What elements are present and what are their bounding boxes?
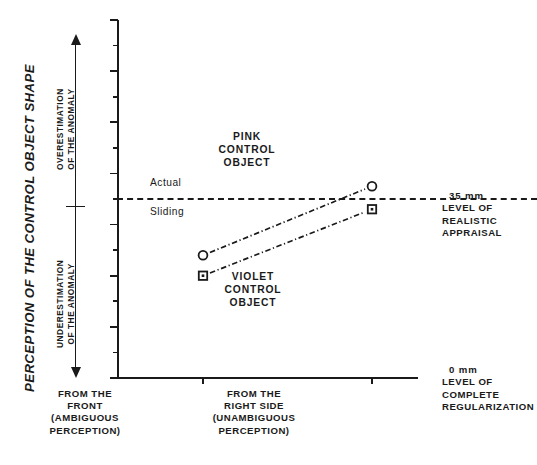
overestimation-label: OVERESTIMATION OF THE ANOMALY bbox=[55, 88, 76, 170]
side-note-35mm-amount: 35 mm bbox=[442, 190, 502, 202]
side-note-35mm-line-2: REALISTIC bbox=[442, 215, 502, 227]
overestimation-line-2: OF THE ANOMALY bbox=[66, 88, 77, 170]
y-tick-50 bbox=[110, 121, 118, 123]
side-note-35mm-line-3: APPRAISAL bbox=[442, 227, 502, 239]
data-series-layer bbox=[118, 20, 418, 379]
x-category-0-line-2: (AMBIGUOUS bbox=[10, 412, 160, 424]
side-note-0mm-line-1: LEVEL OF bbox=[442, 376, 534, 388]
x-category-1-line-2: (UNAMBIGUOUS bbox=[179, 412, 329, 424]
x-category-label-1: FROM THERIGHT SIDE(UNAMBIGUOUSPERCEPTION… bbox=[179, 388, 329, 437]
y-tick-30 bbox=[110, 224, 118, 226]
underestimation-line-2: OF THE ANOMALY bbox=[66, 260, 77, 348]
x-category-0-line-0: FROM THE bbox=[10, 388, 160, 400]
side-note-35mm: 35 mm LEVEL OF REALISTIC APPRAISAL bbox=[442, 190, 502, 240]
series-line-0 bbox=[210, 189, 365, 252]
x-category-label-0: FROM THEFRONT(AMBIGUOUSPERCEPTION) bbox=[10, 388, 160, 437]
y-tick-60 bbox=[110, 70, 118, 72]
underestimation-label: UNDERESTIMATION OF THE ANOMALY bbox=[55, 260, 76, 348]
side-note-0mm: 0 mm LEVEL OF COMPLETE REGULARIZATION bbox=[442, 364, 534, 414]
x-category-1-line-0: FROM THE bbox=[179, 388, 329, 400]
data-point-0-1 bbox=[368, 182, 377, 191]
plot-area: 010203040506070 Actual Sliding PINK CONT… bbox=[118, 20, 418, 378]
overestimation-line-1: OVERESTIMATION bbox=[55, 88, 66, 170]
side-note-35mm-line-1: LEVEL OF bbox=[442, 202, 502, 214]
data-point-1-1-center bbox=[371, 208, 374, 211]
arrow-up-icon bbox=[71, 34, 81, 45]
side-note-0mm-line-3: REGULARIZATION bbox=[442, 401, 534, 413]
side-note-0mm-amount: 0 mm bbox=[442, 364, 534, 376]
x-category-0-line-3: PERCEPTION) bbox=[10, 425, 160, 437]
arrow-down-icon bbox=[71, 367, 81, 378]
y-tick-40 bbox=[110, 173, 118, 175]
data-point-1-0-center bbox=[202, 274, 205, 277]
direction-annotation-column: OVERESTIMATION OF THE ANOMALY UNDERESTIM… bbox=[55, 18, 97, 378]
x-category-1-line-3: PERCEPTION) bbox=[179, 425, 329, 437]
direction-axis-crossbar bbox=[66, 206, 85, 207]
side-note-0mm-line-2: COMPLETE bbox=[442, 389, 534, 401]
x-category-1-line-1: RIGHT SIDE bbox=[179, 400, 329, 412]
y-axis-title: PERCEPTION OF THE CONTROL OBJECT SHAPE bbox=[22, 64, 37, 392]
y-tick-20 bbox=[110, 275, 118, 277]
y-tick-70 bbox=[110, 19, 118, 21]
y-tick-10 bbox=[110, 326, 118, 328]
y-tick-0 bbox=[110, 377, 118, 379]
data-point-0-0 bbox=[199, 251, 208, 260]
underestimation-line-1: UNDERESTIMATION bbox=[55, 260, 66, 348]
x-category-0-line-1: FRONT bbox=[10, 400, 160, 412]
